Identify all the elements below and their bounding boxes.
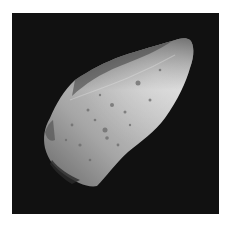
asteroid-photo	[12, 13, 219, 214]
photo-frame	[12, 13, 219, 214]
